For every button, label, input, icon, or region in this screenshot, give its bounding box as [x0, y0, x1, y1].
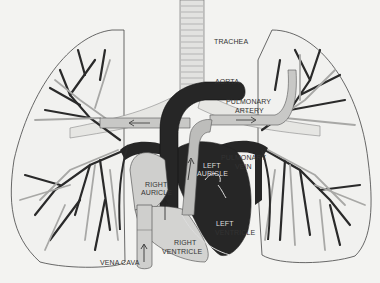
- label-left-ventricle-line1: LEFT: [216, 220, 234, 228]
- label-right-ventricle-line1: RIGHT: [174, 239, 196, 247]
- label-left-ventricle-line2: VENTRICLE: [215, 229, 255, 237]
- label-pulmonary-artery-line1: PULMONARY: [226, 98, 271, 106]
- label-pulmonary-artery-line2: ARTERY: [235, 107, 264, 115]
- label-pulmonary-vein-line2: VEIN: [235, 163, 252, 171]
- label-vena-cava: VENA CAVA: [100, 259, 140, 267]
- heart-lungs-diagram: TRACHEA AORTA PULMONARY ARTERY PULMONARY…: [0, 0, 380, 283]
- label-left-auricle-line2: AURICLE: [197, 170, 228, 178]
- label-pulmonary-vein-line1: PULMONARY: [221, 154, 266, 162]
- label-right-ventricle-line2: VENTRICLE: [162, 248, 202, 256]
- label-trachea: TRACHEA: [214, 38, 248, 46]
- label-right-auricle-line2: AURICLE: [141, 189, 172, 197]
- label-aorta: AORTA: [215, 78, 239, 86]
- label-left-auricle-line1: LEFT: [203, 162, 221, 170]
- trachea: [180, 0, 204, 95]
- label-right-auricle-line1: RIGHT: [145, 181, 167, 189]
